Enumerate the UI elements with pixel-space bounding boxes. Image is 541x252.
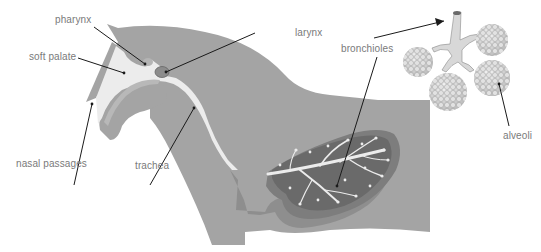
label-nasal-passages: nasal passages [16,158,87,169]
label-larynx: larynx [295,27,322,38]
alveoli-cluster [403,11,510,111]
respiratory-diagram: pharynx soft palate larynx bronchioles a… [0,0,541,252]
label-alveoli: alveoli [503,130,532,141]
arrow-head-icon [435,18,444,26]
horse-anatomy-illustration [0,0,541,252]
label-pharynx: pharynx [55,14,91,25]
label-soft-palate: soft palate [29,51,76,62]
label-trachea: trachea [135,160,169,171]
label-bronchioles: bronchioles [341,43,393,54]
